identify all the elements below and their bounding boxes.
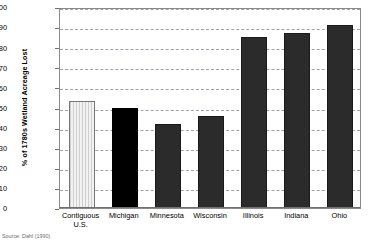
bar-contiguous-u-s[interactable]: [69, 101, 95, 208]
x-tick-label-line: U.S.: [59, 221, 102, 230]
gridline: [60, 89, 360, 90]
gridline: [60, 110, 360, 111]
bar-minnesota[interactable]: [155, 124, 181, 208]
x-tick-label-line: Ohio: [318, 212, 361, 221]
x-tick-label: ContiguousU.S.: [59, 212, 102, 229]
x-tick-label: Ohio: [318, 212, 361, 221]
x-tick-label: Illinois: [232, 212, 275, 221]
y-axis-title: % of 1780s Wetland Acreage Lost: [20, 28, 29, 188]
y-tick-label: 100: [0, 4, 7, 11]
x-tick-label: Wisconsin: [188, 212, 231, 221]
x-tick-label-line: Wisconsin: [188, 212, 231, 221]
gridline: [60, 69, 360, 70]
y-tick-label: 40: [0, 125, 7, 132]
y-tick-label: 30: [0, 145, 7, 152]
x-tick-label-line: Indiana: [275, 212, 318, 221]
source-note: Source: Dahl (1990): [2, 233, 50, 239]
x-tick-label-line: Minnesota: [145, 212, 188, 221]
y-tick-label: 80: [0, 45, 7, 52]
bar-ohio[interactable]: [327, 25, 353, 208]
x-tick-label-line: Illinois: [232, 212, 275, 221]
y-tick-label: 20: [0, 165, 7, 172]
x-tick-label: Indiana: [275, 212, 318, 221]
y-tick-label: 10: [0, 185, 7, 192]
bar-michigan[interactable]: [112, 108, 138, 209]
gridline: [60, 9, 360, 10]
y-tick-label: 60: [0, 85, 7, 92]
gridline: [60, 49, 360, 50]
plot-inner: [60, 9, 360, 208]
y-tick-label: 0: [0, 205, 7, 212]
x-axis-baseline: [60, 207, 360, 208]
bar-indiana[interactable]: [284, 33, 310, 208]
bar-illinois[interactable]: [241, 37, 267, 208]
y-tick-label: 90: [0, 24, 7, 31]
y-tick-label: 50: [0, 105, 7, 112]
x-tick-label: Michigan: [102, 212, 145, 221]
x-tick-label: Minnesota: [145, 212, 188, 221]
bar-chart-figure: % of 1780s Wetland Acreage Lost 01020304…: [0, 0, 371, 241]
plot-area: [59, 8, 361, 209]
x-tick-label-line: Michigan: [102, 212, 145, 221]
y-tick-mark: [55, 209, 59, 210]
bar-wisconsin[interactable]: [198, 116, 224, 208]
y-tick-label: 70: [0, 65, 7, 72]
gridline: [60, 29, 360, 30]
